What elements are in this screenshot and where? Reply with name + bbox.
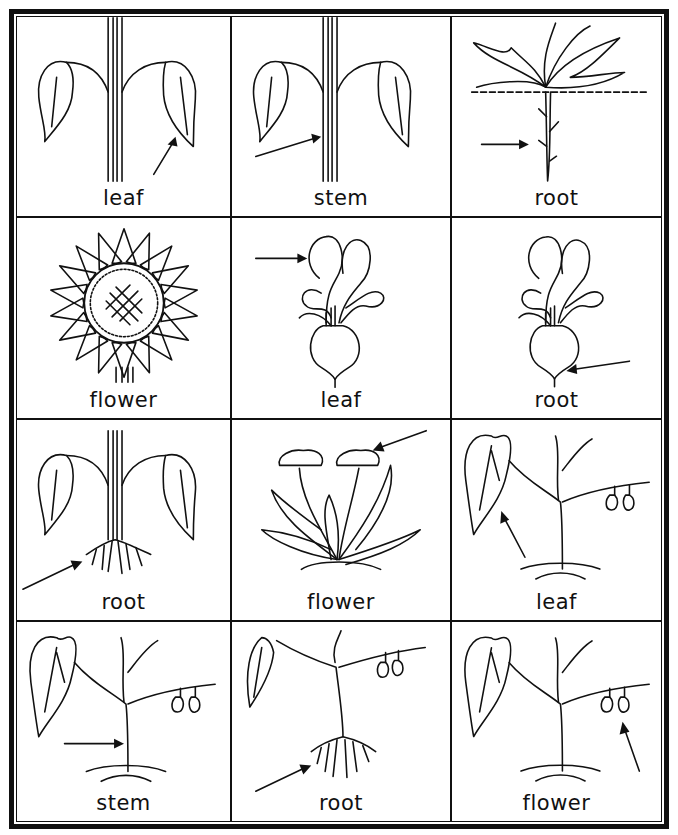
stem-with-roots-illustration bbox=[17, 420, 230, 590]
bean-plant-illustration bbox=[452, 420, 661, 590]
card-label: flower bbox=[17, 388, 230, 412]
card-label: leaf bbox=[17, 186, 230, 210]
beet-illustration bbox=[232, 218, 450, 388]
card-flower-dandelion: flower bbox=[232, 420, 452, 622]
card-label: root bbox=[452, 186, 661, 210]
card-root-stem-plant: root bbox=[17, 420, 232, 622]
sunflower-illustration bbox=[17, 218, 230, 388]
card-flower-bean-plant: flower bbox=[452, 622, 661, 821]
card-label: stem bbox=[232, 186, 450, 210]
card-root-beet: root bbox=[452, 218, 661, 420]
worksheet-frame: leaf stem bbox=[9, 9, 669, 829]
card-root-dandelion: root bbox=[452, 17, 661, 218]
card-leaf-bean-plant: leaf bbox=[452, 420, 661, 622]
beet-illustration bbox=[452, 218, 661, 388]
card-label: root bbox=[232, 791, 450, 815]
card-grid: leaf stem bbox=[17, 17, 661, 821]
card-label: root bbox=[452, 388, 661, 412]
card-label: leaf bbox=[452, 590, 661, 614]
card-label: flower bbox=[452, 791, 661, 815]
stem-with-leaves-illustration bbox=[17, 17, 230, 187]
bean-plant-illustration bbox=[17, 622, 230, 792]
card-leaf-beet: leaf bbox=[232, 218, 452, 420]
card-label: flower bbox=[232, 590, 450, 614]
card-label: leaf bbox=[232, 388, 450, 412]
bean-plant-illustration bbox=[452, 622, 661, 792]
card-root-bean-plant: root bbox=[232, 622, 452, 821]
dandelion-root-illustration bbox=[452, 17, 661, 187]
card-stem-stem-plant: stem bbox=[232, 17, 452, 218]
card-flower-sunflower: flower bbox=[17, 218, 232, 420]
card-stem-bean-plant: stem bbox=[17, 622, 232, 821]
dandelion-illustration bbox=[232, 420, 450, 590]
card-leaf-stem-plant: leaf bbox=[17, 17, 232, 218]
card-label: root bbox=[17, 590, 230, 614]
bean-plant-with-roots-illustration bbox=[232, 622, 450, 792]
stem-with-leaves-illustration bbox=[232, 17, 450, 187]
card-label: stem bbox=[17, 791, 230, 815]
